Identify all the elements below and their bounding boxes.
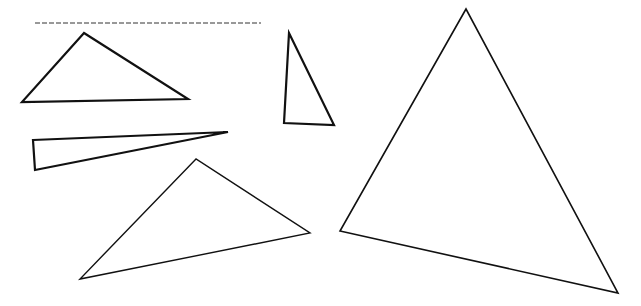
- triangle-2: [284, 33, 334, 125]
- triangles-worksheet: [0, 0, 641, 306]
- triangle-3: [33, 132, 228, 170]
- triangle-4: [80, 159, 310, 279]
- triangle-5: [340, 9, 618, 293]
- triangle-1: [22, 33, 188, 102]
